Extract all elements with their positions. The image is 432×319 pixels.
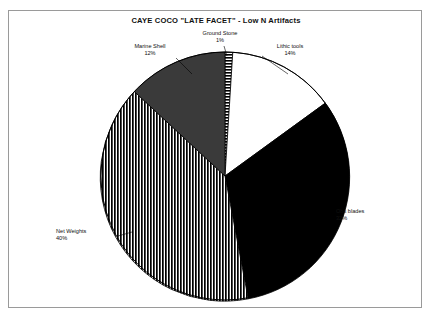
pie-label-marine-shell-percent: 12% [114,50,186,57]
pie-label-net-weights-percent: 40% [56,235,128,242]
pie-label-obs-blades: Obs blades 32% [336,208,408,222]
pie-chart: Ground Stone 1% Lithic tools 14% Obs bla… [0,0,432,319]
pie-label-lithic-tools-name: Lithic tools [277,43,303,49]
pie-label-ground-stone-percent: 1% [184,37,256,44]
pie-label-lithic-tools: Lithic tools 14% [254,43,326,57]
pie-label-net-weights-name: Net Weights [56,228,86,234]
pie-label-obs-blades-percent: 32% [336,215,408,222]
pie-svg [0,0,432,319]
pie-label-obs-blades-name: Obs blades [336,208,364,214]
pie-label-ground-stone-name: Ground Stone [203,30,238,36]
pie-label-marine-shell-name: Marine Shell [134,43,165,49]
pie-label-ground-stone: Ground Stone 1% [184,30,256,44]
chart-canvas: CAYE COCO "LATE FACET" - Low N Artifacts [0,0,432,319]
pie-label-lithic-tools-percent: 14% [254,50,326,57]
pie-label-marine-shell: Marine Shell 12% [114,43,186,57]
pie-label-net-weights: Net Weights 40% [56,228,128,242]
